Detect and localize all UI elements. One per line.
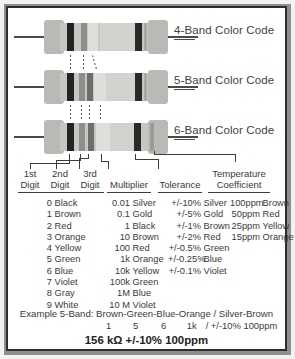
- tempcoef-color: Orange: [263, 232, 294, 243]
- digit-value: 5: [34, 254, 52, 265]
- connector-dot-a2: [83, 55, 84, 70]
- lead-right: [164, 86, 198, 88]
- multiplier-color: Orange: [133, 254, 164, 265]
- example-value-4: 1k: [178, 320, 206, 331]
- band-1: [67, 123, 74, 151]
- band-1: [67, 23, 74, 51]
- callout-temp-line2: Coefficient: [217, 179, 262, 190]
- column-temperature-coefficient: 100ppm Brown 50ppm Red 25ppm Yellow 15pp…: [230, 198, 288, 243]
- digit-color: Orange: [55, 232, 86, 243]
- resistor-6-band: [44, 120, 168, 154]
- body-highlight-2: [106, 73, 138, 101]
- callout-2nd-digit: 2nd Digit: [46, 168, 74, 190]
- table-row: 8 Gray: [34, 288, 104, 299]
- example-value-1: 1: [96, 320, 122, 331]
- band-3: [87, 73, 93, 101]
- tolerance-color: Red: [204, 232, 221, 243]
- multiplier-color: Green: [133, 277, 159, 288]
- table-row: 0.01 Silver: [104, 198, 166, 209]
- table-row: 1M Blue: [104, 288, 166, 299]
- resistor-cap-right: [148, 70, 168, 104]
- band-4: [135, 73, 142, 101]
- diagram-callouts: 1st Digit 2nd Digit 3rd Digit Multiplier…: [8, 168, 285, 200]
- table-row: +/-5% Gold: [168, 209, 234, 220]
- leader-6: [235, 154, 236, 162]
- resistor-diagram: 4-Band Color Code 5-Band Color Code: [8, 8, 285, 171]
- tolerance-color: Gold: [204, 209, 224, 220]
- resistor-4-band: [44, 20, 168, 54]
- digit-value: 2: [34, 221, 52, 232]
- tolerance-color: Green: [204, 243, 230, 254]
- callout-temperature-coefficient: Temperature Coefficient: [206, 168, 272, 190]
- callout-underline-multiplier: [107, 192, 151, 193]
- table-row: 0 Black: [34, 198, 104, 209]
- band-3: [88, 123, 94, 151]
- digit-color: Violet: [55, 277, 78, 288]
- multiplier-color: Blue: [133, 288, 152, 299]
- callout-multiplier: Multiplier: [105, 179, 153, 190]
- multiplier-color: Red: [133, 243, 150, 254]
- tempcoef-color: Yellow: [263, 221, 290, 232]
- resistor-6-band-label-underline: [174, 139, 195, 140]
- table-row: 10 Brown: [104, 232, 166, 243]
- tolerance-value: +/-2%: [168, 232, 201, 243]
- column-multiplier: 0.01 Silver 0.1 Gold 1 Black 10 Brown 10…: [104, 198, 166, 311]
- digit-value: 1: [34, 209, 52, 220]
- leader-2: [56, 160, 81, 161]
- callout-1st-digit-line1: 1st: [24, 168, 37, 179]
- callout-temp-line1: Temperature: [212, 168, 265, 179]
- leader-5-d: [135, 159, 159, 160]
- multiplier-color: Silver: [133, 198, 156, 209]
- digit-value: 7: [34, 277, 52, 288]
- resistor-6-band-label: 6-Band Color Code: [174, 124, 274, 136]
- table-row: 7 Violet: [34, 277, 104, 288]
- example-value-5: / +/-10% 100ppm: [206, 320, 278, 331]
- band-3: [135, 23, 142, 51]
- tempcoef-value: 25ppm: [230, 221, 260, 232]
- table-row: +/-1% Brown: [168, 221, 234, 232]
- tolerance-value: +/-10%: [168, 198, 201, 209]
- tempcoef-color: Brown: [263, 198, 289, 209]
- callout-1st-digit: 1st Digit: [16, 168, 44, 190]
- lead-left: [14, 136, 46, 138]
- multiplier-color: Yellow: [133, 266, 160, 277]
- tolerance-value: +/-0.5%: [168, 243, 201, 254]
- chart-frame: 4-Band Color Code 5-Band Color Code: [6, 6, 287, 351]
- multiplier-color: Brown: [133, 232, 159, 243]
- callout-multiplier-label: Multiplier: [110, 179, 148, 190]
- example-result: 156 kΩ +/-10% 100ppm: [8, 334, 285, 346]
- resistor-color-code-chart: 4-Band Color Code 5-Band Color Code: [0, 0, 295, 359]
- example-values-line: 1561k/ +/-10% 100ppm: [8, 320, 285, 331]
- callout-2nd-digit-line2: Digit: [50, 179, 69, 190]
- multiplier-value: 1k: [104, 254, 130, 265]
- band-1: [67, 73, 74, 101]
- tolerance-color: Blue: [204, 254, 223, 265]
- tempcoef-color: Red: [263, 209, 280, 220]
- body-highlight: [96, 123, 110, 151]
- table-row: 10k Yellow: [104, 266, 166, 277]
- connector-dot-b2: [81, 105, 82, 120]
- example-value-3: 6: [150, 320, 178, 331]
- digit-color: Black: [55, 198, 78, 209]
- example-line-1: Example 5-Band: Brown-Green-Blue-Orange …: [8, 308, 285, 319]
- example-block: Example 5-Band: Brown-Green-Blue-Orange …: [8, 308, 285, 346]
- digit-value: 3: [34, 232, 52, 243]
- table-row: 2 Red: [34, 221, 104, 232]
- table-row: +/-0.1% Violet: [168, 266, 234, 277]
- body-highlight: [94, 73, 106, 101]
- digit-value: 6: [34, 266, 52, 277]
- band-4: [144, 23, 147, 51]
- digit-color: Red: [55, 221, 72, 232]
- tolerance-value: +/-0.25%: [168, 254, 201, 265]
- tolerance-value: +/-1%: [168, 221, 201, 232]
- tolerance-value: +/-0.1%: [168, 266, 201, 277]
- digit-color: Gray: [55, 288, 75, 299]
- body-highlight-2: [100, 23, 138, 51]
- band-2: [81, 23, 87, 51]
- example-value-2: 5: [122, 320, 150, 331]
- leader-1-v: [69, 154, 70, 164]
- table-row: 100ppm Brown: [230, 198, 288, 209]
- leader-6-d: [154, 154, 236, 155]
- table-row: +/-2% Red: [168, 232, 234, 243]
- connector-dot-b1: [70, 105, 71, 120]
